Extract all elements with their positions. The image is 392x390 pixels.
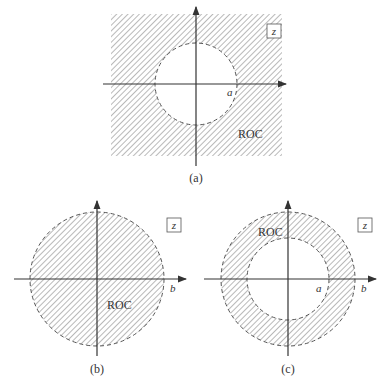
roc-diagram: z a ROC (a) z b ROC (b) z a b ROC (c) <box>0 0 392 390</box>
panel-c: z a b ROC (c) <box>204 201 376 376</box>
caption-c: (c) <box>281 362 294 376</box>
roc-label: ROC <box>107 298 132 312</box>
roc-label: ROC <box>238 127 263 141</box>
caption-b: (b) <box>90 362 104 376</box>
radius-label-b: b <box>361 282 367 294</box>
radius-label-a: a <box>227 86 233 98</box>
z-plane-label: z <box>271 25 277 37</box>
radius-label-b: b <box>170 282 176 294</box>
z-plane-label: z <box>171 219 177 231</box>
panel-b: z b ROC (b) <box>14 201 186 376</box>
roc-label: ROC <box>258 225 283 239</box>
z-plane-label: z <box>362 219 368 231</box>
radius-label-a: a <box>316 282 322 294</box>
caption-a: (a) <box>189 171 202 185</box>
panel-a: z a ROC (a) <box>103 7 286 185</box>
